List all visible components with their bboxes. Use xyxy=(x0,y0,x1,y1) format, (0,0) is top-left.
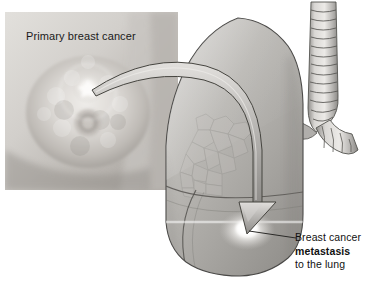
caption-line-2: metastasis xyxy=(295,245,381,259)
lung-body-group xyxy=(166,18,303,276)
metastasis-caption: Breast cancer metastasis to the lung xyxy=(295,231,381,272)
caption-line-3: to the lung xyxy=(295,258,381,272)
right-bronchus xyxy=(316,120,358,154)
medical-illustration-figure: Primary breast cancer xyxy=(0,0,381,304)
caption-line-1: Breast cancer xyxy=(295,231,381,245)
trachea-group xyxy=(298,2,358,154)
